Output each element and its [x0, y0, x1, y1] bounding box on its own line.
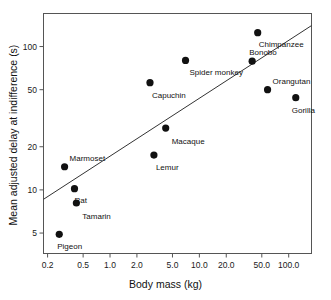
data-point-marker	[71, 185, 78, 192]
x-axis-tick-label: 2.0	[131, 261, 143, 270]
x-axis-tick-label: 10.0	[191, 261, 208, 270]
data-point-label: Pigeon	[57, 243, 82, 251]
data-point-marker	[146, 79, 153, 86]
data-point-marker	[182, 57, 189, 64]
x-axis-title: Body mass (kg)	[0, 279, 331, 290]
data-point-label: Chimpanzee	[259, 41, 304, 49]
x-axis-tick-label: 100.0	[278, 261, 299, 270]
data-point-label: Spider monkey	[190, 69, 243, 77]
x-axis-tick-label: 20.0	[218, 261, 235, 270]
x-axis-tick-label: 1.0	[104, 261, 116, 270]
data-point-marker	[264, 86, 271, 93]
x-axis-tick-label: 0.5	[77, 261, 89, 270]
x-axis-tick-label: 0.2	[42, 261, 54, 270]
scatter-chart-figure: 5102050100 0.20.51.02.05.010.020.050.010…	[0, 0, 331, 300]
data-point-label: Tamarin	[82, 213, 110, 221]
data-point-marker	[150, 151, 157, 158]
data-point-label: Marmoset	[70, 155, 106, 163]
data-point-label: Orangutan	[273, 78, 311, 86]
data-point-marker	[249, 58, 256, 65]
data-points	[56, 29, 300, 238]
data-point-marker	[254, 29, 261, 36]
data-point-label: Lemur	[156, 164, 179, 172]
data-point-label: Rat	[74, 197, 86, 205]
data-point-marker	[162, 124, 169, 131]
data-point-label: Bonobo	[249, 49, 277, 57]
data-point-marker	[56, 231, 63, 238]
data-point-label: Gorilla	[292, 107, 315, 115]
x-axis-tick-label: 5.0	[167, 261, 179, 270]
y-axis-title: Mean adjusted delay at indifference (s)	[8, 5, 20, 265]
data-point-marker	[61, 163, 68, 170]
data-point-label: Capuchin	[152, 92, 186, 100]
data-point-label: Macaque	[172, 138, 205, 146]
data-point-marker	[292, 94, 299, 101]
x-axis-tick-label: 50.0	[254, 261, 271, 270]
axis-ticks	[40, 47, 289, 258]
